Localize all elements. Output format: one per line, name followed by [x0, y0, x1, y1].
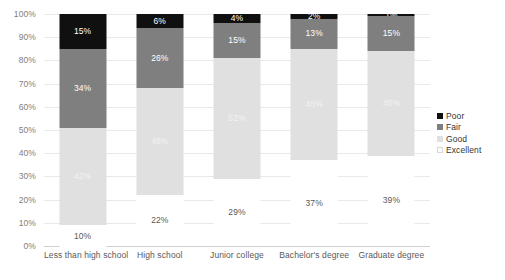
bar-segment-good[interactable]: 52%: [213, 58, 260, 179]
bar-group: 15%34%42%10%: [44, 14, 121, 246]
legend-swatch-poor-icon: [437, 113, 443, 119]
bar-segment-excellent[interactable]: 29%: [213, 179, 260, 246]
bar-stack[interactable]: 6%26%46%22%: [136, 14, 183, 246]
legend-swatch-excellent-icon: [437, 147, 443, 153]
legend-item-label: Good: [446, 134, 467, 144]
legend-item-excellent[interactable]: Excellent: [437, 145, 501, 157]
x-axis-tick-label: Junior college: [198, 250, 275, 260]
bar-segment-value-label: 39%: [383, 196, 400, 205]
bar-segment-poor[interactable]: 15%: [59, 14, 106, 49]
bar-segment-fair[interactable]: 15%: [368, 16, 415, 51]
legend-item-label: Poor: [446, 111, 464, 121]
bar-group: 2%13%48%37%: [276, 14, 353, 246]
legend-swatch-fair-icon: [437, 124, 443, 130]
bar-segment-fair[interactable]: 26%: [136, 28, 183, 88]
legend-item-good[interactable]: Good: [437, 133, 501, 145]
bar-group: 6%26%46%22%: [121, 14, 198, 246]
bar-segment-value-label: 15%: [74, 27, 91, 36]
x-axis: Less than high schoolHigh schoolJunior c…: [44, 250, 430, 270]
bar-segment-good[interactable]: 42%: [59, 128, 106, 225]
bar-segment-fair[interactable]: 34%: [59, 49, 106, 128]
bar-segment-value-label: 4%: [231, 14, 244, 23]
x-axis-tick-label: High school: [121, 250, 198, 260]
stacked-bar-chart: 0%10%20%30%40%50%60%70%80%90%100% 15%34%…: [0, 0, 505, 280]
bar-segment-value-label: 10%: [74, 232, 91, 241]
bar-segment-value-label: 37%: [306, 199, 323, 208]
bar-segment-excellent[interactable]: 39%: [368, 156, 415, 246]
x-axis-tick-label: Graduate degree: [353, 250, 430, 260]
bar-segment-value-label: 42%: [74, 172, 91, 181]
y-axis-tick-label: 90%: [19, 32, 36, 42]
bar-segment-good[interactable]: 45%: [368, 51, 415, 155]
bar-segment-value-label: 34%: [74, 84, 91, 93]
y-axis-tick-label: 100%: [14, 9, 36, 19]
bar-segment-value-label: 22%: [151, 216, 168, 225]
bar-segment-value-label: 15%: [383, 29, 400, 38]
legend-item-label: Excellent: [446, 145, 481, 155]
bar-segment-value-label: 52%: [228, 114, 245, 123]
y-axis-tick-label: 60%: [19, 102, 36, 112]
bar-segment-value-label: 29%: [228, 208, 245, 217]
bar-segment-excellent[interactable]: 22%: [136, 195, 183, 246]
y-axis-tick-label: 10%: [19, 218, 36, 228]
bar-segment-excellent[interactable]: 37%: [291, 160, 338, 246]
bar-segment-value-label: 13%: [306, 29, 323, 38]
bar-segment-value-label: 46%: [151, 137, 168, 146]
bar-stack[interactable]: 2%13%48%37%: [291, 14, 338, 246]
bar-segment-value-label: 6%: [154, 17, 167, 26]
bar-segment-fair[interactable]: 13%: [291, 19, 338, 49]
plot-area: 15%34%42%10%6%26%46%22%4%15%52%29%2%13%4…: [44, 14, 430, 246]
legend-swatch-good-icon: [437, 136, 443, 142]
x-axis-tick-label: Less than high school: [44, 250, 121, 260]
bar-stack[interactable]: 15%34%42%10%: [59, 14, 106, 246]
y-axis: 0%10%20%30%40%50%60%70%80%90%100%: [0, 14, 40, 246]
bar-segment-good[interactable]: 48%: [291, 49, 338, 160]
legend: PoorFairGoodExcellent: [437, 110, 501, 156]
bar-segment-fair[interactable]: 15%: [213, 23, 260, 58]
y-axis-tick-label: 30%: [19, 171, 36, 181]
y-axis-tick-label: 0%: [24, 241, 37, 251]
bar-segment-poor[interactable]: 6%: [136, 14, 183, 28]
y-axis-tick-label: 40%: [19, 148, 36, 158]
bar-stack[interactable]: 1%15%45%39%: [368, 14, 415, 246]
bar-group: 1%15%45%39%: [353, 14, 430, 246]
y-axis-tick-label: 20%: [19, 195, 36, 205]
bar-segment-value-label: 15%: [228, 36, 245, 45]
legend-item-label: Fair: [446, 122, 461, 132]
bar-stack[interactable]: 4%15%52%29%: [213, 14, 260, 246]
legend-item-fair[interactable]: Fair: [437, 122, 501, 134]
bar-segment-good[interactable]: 46%: [136, 88, 183, 195]
y-axis-tick-label: 50%: [19, 125, 36, 135]
legend-item-poor[interactable]: Poor: [437, 110, 501, 122]
bar-segment-excellent[interactable]: 10%: [59, 225, 106, 248]
y-axis-tick-label: 80%: [19, 55, 36, 65]
bar-segment-value-label: 45%: [383, 99, 400, 108]
bar-segment-value-label: 26%: [151, 54, 168, 63]
y-axis-tick-label: 70%: [19, 79, 36, 89]
x-axis-tick-label: Bachelor's degree: [276, 250, 353, 260]
bar-group: 4%15%52%29%: [198, 14, 275, 246]
bar-segment-poor[interactable]: 4%: [213, 14, 260, 23]
bar-segment-value-label: 48%: [306, 100, 323, 109]
